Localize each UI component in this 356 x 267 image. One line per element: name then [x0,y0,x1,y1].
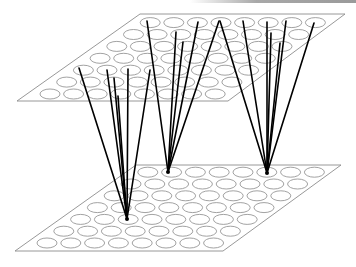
node [87,89,107,99]
node [185,53,205,63]
node [161,53,181,63]
node [171,30,191,40]
node [134,89,154,99]
node [289,30,309,40]
node [85,238,105,248]
node [162,167,182,177]
node [213,214,233,224]
node [223,191,243,201]
node [149,226,169,236]
node [137,53,157,63]
node [78,226,98,236]
node [239,65,259,75]
node [152,191,172,201]
node [281,167,301,177]
node [101,226,121,236]
node [208,53,228,63]
node [130,41,150,51]
diagram-canvas [0,0,356,267]
node [156,238,176,248]
group-right [220,21,314,175]
node [180,238,200,248]
node [159,203,179,213]
lower-plane [15,165,341,251]
lower-plane-outline [15,165,341,251]
node [230,203,250,213]
node [265,30,285,40]
node [271,191,291,201]
node [304,167,324,177]
node [190,214,210,224]
network-diagram [0,0,356,267]
node [199,191,219,201]
node [108,238,128,248]
node [54,226,74,236]
node [121,65,141,75]
node [209,167,229,177]
top-edge-bar [190,0,356,3]
node [215,65,235,75]
node [124,30,144,40]
node [142,214,162,224]
node [37,238,57,248]
node [220,226,240,236]
node [154,41,174,51]
node [255,53,275,63]
node [140,18,160,28]
node [173,226,193,236]
node [204,238,224,248]
node [90,53,110,63]
node [305,18,325,28]
node [288,179,308,189]
convergence-point [125,217,129,221]
node [166,214,186,224]
connection-line [147,21,168,172]
node [164,18,184,28]
node [158,89,178,99]
node [40,89,60,99]
node [94,214,114,224]
node [57,77,77,87]
node [254,203,274,213]
node [128,77,148,87]
node [183,203,203,213]
node [169,179,189,189]
node [218,30,238,40]
node [151,77,171,87]
planes-layer [15,14,345,251]
node [107,41,127,51]
node [145,179,165,189]
node [168,65,188,75]
connection-line [243,21,267,173]
node [125,226,145,236]
node [216,179,236,189]
node [197,226,217,236]
node [240,179,260,189]
node [61,238,81,248]
node [132,238,152,248]
node [87,203,107,213]
node [138,167,158,177]
node [205,89,225,99]
node [198,77,218,87]
node [71,214,91,224]
node [192,179,212,189]
node [237,214,257,224]
node [264,179,284,189]
node [233,167,253,177]
convergence-point [166,170,170,174]
connection-line [127,69,128,219]
node [64,89,84,99]
node [176,191,196,201]
node [185,167,205,177]
convergence-point [265,171,269,175]
node [248,41,268,51]
node [247,191,267,201]
node [206,203,226,213]
node [135,203,155,213]
connection-line [107,70,127,219]
node [194,30,214,40]
node [73,65,93,75]
node [114,53,134,63]
node [258,18,278,28]
